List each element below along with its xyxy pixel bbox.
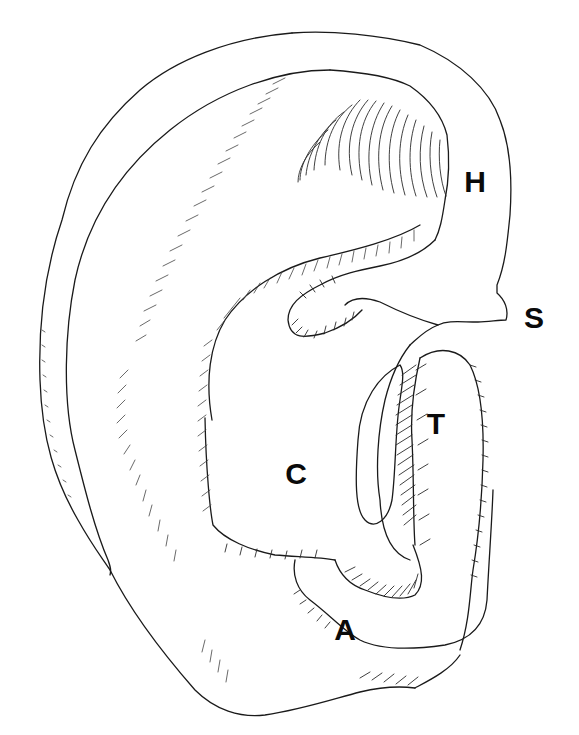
- fossa-hatching: [298, 100, 446, 197]
- ear-drawing: H S T C A: [0, 0, 579, 735]
- concha-floor: [205, 418, 335, 560]
- crus-helix-fold: [288, 240, 435, 336]
- lobe-hatching: [360, 672, 418, 685]
- scapha-hatching: [117, 78, 285, 682]
- antitragus-hatching: [225, 544, 418, 628]
- concha-rim: [345, 299, 438, 325]
- label-antitragus: A: [334, 613, 356, 646]
- tragus-outline: [378, 345, 460, 688]
- label-tragus: T: [427, 407, 445, 440]
- outer-ear-left-contour: [40, 33, 415, 716]
- crus-hatching: [292, 276, 354, 338]
- ear-diagram: H S T C A: [0, 0, 579, 735]
- antitragus-outline: [335, 545, 422, 598]
- intertragic-notch: [294, 490, 493, 648]
- tragus-right-edge: [420, 351, 483, 650]
- concha-outline: [209, 225, 420, 420]
- label-concha: C: [285, 457, 307, 490]
- tragus-hatching: [396, 364, 488, 577]
- label-helix: H: [464, 165, 486, 198]
- label-spine: S: [524, 301, 544, 334]
- inner-helix-rim: [66, 70, 330, 575]
